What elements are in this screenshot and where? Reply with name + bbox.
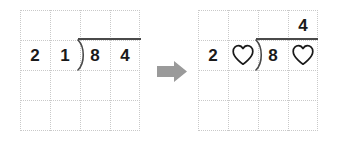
left-cell-dividend-ones: 4 — [110, 40, 140, 70]
right-grid-panel: 4 2 8 — [198, 10, 318, 131]
division-bracket-icon — [254, 39, 268, 71]
division-bracket-icon — [76, 39, 90, 71]
digit-value: 1 — [60, 47, 69, 64]
digit-value: 4 — [120, 47, 129, 64]
heart-outline-icon — [231, 44, 255, 66]
digit-value: 4 — [298, 17, 307, 34]
left-grid-panel: 2 1 8 4 — [20, 10, 140, 131]
heart-outline-icon — [291, 44, 315, 66]
left-grid-cells: 2 1 8 4 — [20, 10, 140, 131]
diagram-canvas: 2 1 8 4 — [0, 0, 340, 144]
digit-value: 2 — [30, 47, 39, 64]
digit-value: 8 — [90, 47, 99, 64]
right-cell-dividend-ones — [288, 40, 318, 70]
right-grid-cells: 4 2 8 — [198, 10, 318, 131]
right-cell-divisor-tens: 2 — [198, 40, 228, 70]
division-bar — [78, 38, 141, 40]
division-bar — [256, 38, 318, 40]
right-cell-quotient: 4 — [288, 10, 318, 40]
digit-value: 2 — [208, 47, 217, 64]
digit-value: 8 — [268, 47, 277, 64]
arrow-right-icon — [157, 61, 187, 82]
left-cell-divisor-tens: 2 — [20, 40, 50, 70]
